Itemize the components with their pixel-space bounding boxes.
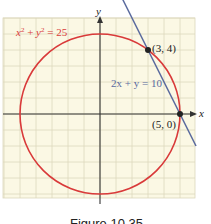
point-label-3-4: (3, 4) xyxy=(152,42,176,55)
line-equation-label: 2x + y = 10 xyxy=(111,77,162,89)
circle-eq-mid: + xyxy=(24,26,36,38)
circle-eq-end: = 25 xyxy=(45,26,68,38)
x-axis-label: x xyxy=(198,107,204,119)
y-axis-label: y xyxy=(95,5,101,17)
figure-caption: Figure 10.35 xyxy=(70,216,143,224)
point-label-5-0: (5, 0) xyxy=(152,118,176,131)
intersection-point xyxy=(177,111,183,117)
intersection-point xyxy=(145,47,151,53)
figure: x2 + y2 = 25 2x + y = 10 (3, 4) (5, 0) x… xyxy=(0,0,211,224)
